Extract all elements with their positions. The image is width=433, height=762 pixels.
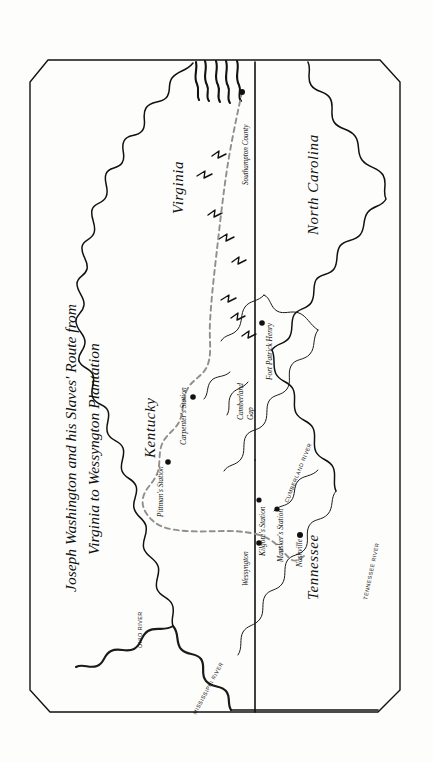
- place-label-fort-patrick-henry: Fort Patrick Henry: [265, 322, 274, 381]
- place-label-wessyngton: Wessyngton: [241, 551, 250, 586]
- state-label-north-carolina: North Carolina: [305, 134, 321, 236]
- kilgores-station-dot[interactable]: [256, 497, 261, 502]
- nashville-dot[interactable]: [297, 532, 303, 538]
- carpenters-station-dot[interactable]: [190, 394, 196, 400]
- map-title-line-1: Joseph Washington and his Slaves' Route …: [62, 304, 79, 592]
- river-label-ohio-river: OHIO RIVER: [137, 611, 143, 648]
- river-label-tennessee-river: TENNESSEE RIVER: [362, 542, 380, 600]
- place-label-carpenters-station: Carpenter's Station: [179, 387, 188, 445]
- north-carolina-outline: [272, 62, 386, 350]
- coast-hatch-marks: [195, 61, 241, 103]
- place-label-kilgores-station: Kilgore's Station: [258, 506, 267, 557]
- southampton-county-dot[interactable]: [239, 89, 245, 95]
- state-label-kentucky: Kentucky: [142, 397, 158, 459]
- place-label-manskers-station: Mansker's Station: [276, 509, 285, 563]
- map-title-line-2: Virginia to Wessyngton Plantation: [85, 343, 102, 555]
- pittmans-station-dot[interactable]: [165, 459, 171, 465]
- place-label-cumberland-gap: Cumberland: [236, 383, 245, 420]
- ohio-river-line: [76, 626, 173, 667]
- south-carolina-georgia-outline: [272, 350, 336, 491]
- place-label-pittmans-station: Pittman's Station: [156, 466, 165, 518]
- map-page: Joseph Washington and his Slaves' Route …: [0, 0, 433, 762]
- place-label-southampton-county: Southampton County: [242, 124, 250, 185]
- fort-patrick-henry-dot[interactable]: [259, 320, 265, 326]
- place-label-cumberland-gap-line2: Gap: [246, 407, 255, 420]
- place-label-nashville: Nashville: [295, 538, 304, 568]
- tennessee-river-line: [238, 491, 336, 655]
- map-canvas: Joseph Washington and his Slaves' Route …: [0, 0, 433, 762]
- state-label-virginia: Virginia: [170, 161, 186, 214]
- state-label-tennessee: Tennessee: [305, 534, 321, 600]
- river-label-cumberland-river: CUMBERLAND RIVER: [283, 442, 312, 503]
- kentucky-tributary-a: [204, 372, 230, 399]
